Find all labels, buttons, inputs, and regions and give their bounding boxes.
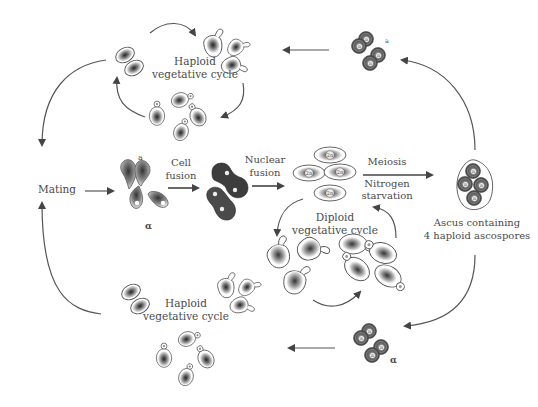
haploid-top-label-1: Haploid bbox=[174, 55, 216, 67]
nuclear-fusion-label-1: Nuclear bbox=[245, 154, 286, 165]
cell-fusion-label-2: fusion bbox=[166, 170, 197, 181]
diploid-label-1: Diploid bbox=[316, 211, 355, 223]
spores-a: a bbox=[352, 32, 390, 71]
ascus-label-1: Ascus containing bbox=[433, 217, 521, 228]
mating-type-alpha: α bbox=[145, 221, 152, 231]
arrow-ascus-to-spores-a bbox=[402, 60, 475, 150]
meiosis-label: Meiosis bbox=[368, 156, 407, 167]
ascus-label-2: 4 haploid ascospores bbox=[424, 230, 530, 241]
haploid-bottom-label-1: Haploid bbox=[165, 297, 207, 309]
cell-fusion-label-1: Cell bbox=[171, 157, 191, 168]
yeast-life-cycle-diagram: n 2n bbox=[0, 0, 538, 407]
mating-label: Mating bbox=[38, 183, 76, 195]
nitrogen-label-1: Nitrogen bbox=[364, 178, 410, 189]
fused-cells bbox=[207, 163, 248, 220]
haploid-cycle-bottom: Haploid vegetative cycle bbox=[119, 272, 262, 387]
haploid-top-label-2: vegetative cycle bbox=[151, 68, 238, 80]
mating-type-a-top: a bbox=[385, 37, 389, 45]
arrow-top-cycle-3 bbox=[117, 78, 145, 117]
haploid-cycle-top: Haploid vegetative cycle bbox=[113, 23, 251, 142]
haploid-bottom-label-2: vegetative cycle bbox=[142, 310, 229, 322]
mating-type-alpha-bottom: α bbox=[390, 355, 397, 365]
arrow-top-cycle-1 bbox=[150, 23, 195, 35]
ascus bbox=[457, 160, 493, 210]
arrow-haploid-top-to-mating bbox=[42, 60, 106, 145]
diploid-label-2: vegetative cycle bbox=[291, 224, 378, 236]
arrow-haploid-bottom-to-mating bbox=[42, 203, 101, 314]
diploid-cells bbox=[293, 147, 356, 201]
diploid-cycle: Diploid vegetative cycle bbox=[262, 199, 410, 306]
arrow-diploid-cycle-3 bbox=[313, 292, 360, 306]
spores-alpha: α bbox=[354, 324, 398, 366]
mating-cells: a α bbox=[121, 153, 168, 231]
nuclear-fusion-label-2: fusion bbox=[250, 167, 281, 178]
nitrogen-label-2: starvation bbox=[361, 190, 413, 201]
arrow-top-cycle-2 bbox=[222, 83, 244, 117]
arrow-ascus-to-spores-alpha bbox=[405, 255, 475, 326]
